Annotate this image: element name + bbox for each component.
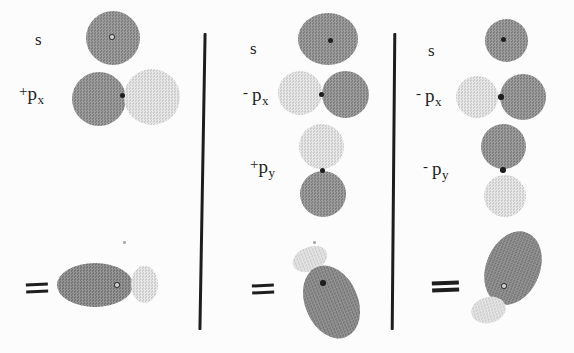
equals-sign: =: [26, 283, 48, 294]
nucleus-dot: [114, 282, 120, 288]
px-lobe-negative: [456, 76, 498, 118]
s-orbital-label: s: [250, 40, 257, 57]
nucleus-dot: [498, 94, 504, 100]
py-lobe-positive: [299, 124, 344, 169]
nucleus-dot: [501, 37, 506, 42]
scan-speck: [123, 241, 126, 244]
hybrid-orbital-major-lobe: [57, 263, 133, 307]
py-lobe-negative: [481, 124, 526, 169]
py-orbital-label: -py: [423, 159, 449, 178]
px-lobe-positive: [72, 72, 126, 126]
nucleus-dot: [109, 34, 115, 40]
nucleus-dot: [501, 283, 507, 289]
equals-sign: =: [252, 284, 274, 295]
px-orbital-label: +px: [19, 84, 44, 103]
nucleus-dot: [319, 92, 324, 97]
equals-sign: =: [432, 280, 459, 293]
column-divider: [198, 33, 206, 330]
s-orbital-label: s: [35, 31, 42, 48]
px-lobe-positive: [500, 74, 546, 120]
py-lobe-positive: [484, 175, 526, 217]
nucleus-dot: [500, 167, 506, 173]
nucleus-dot: [328, 38, 333, 43]
scan-speck: [313, 241, 316, 244]
px-lobe-positive: [322, 71, 369, 118]
px-lobe-negative: [278, 71, 322, 115]
nucleus-dot: [320, 168, 325, 173]
s-orbital-label: s: [428, 42, 435, 59]
nucleus-dot: [120, 93, 125, 98]
px-orbital-label: -px: [416, 86, 442, 105]
py-lobe-negative: [300, 171, 346, 217]
s-orbital-lobe: [485, 19, 528, 62]
nucleus-dot: [320, 280, 326, 286]
column-divider: [391, 33, 396, 330]
px-lobe-negative: [124, 69, 180, 125]
px-orbital-label: -px: [243, 85, 269, 104]
orbital-hybridization-diagram: s +px = s -px +py: [0, 0, 574, 353]
py-orbital-label: +py: [250, 157, 275, 176]
hybrid-orbital-minor-lobe: [131, 266, 158, 303]
